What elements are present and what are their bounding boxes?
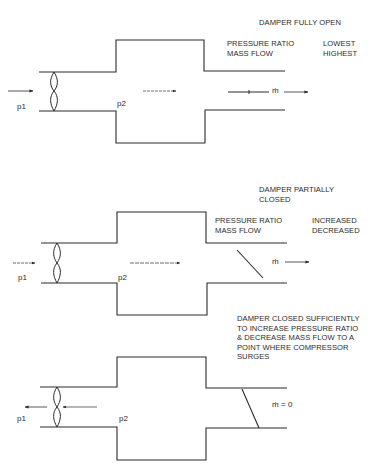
- panel-2-param-labels: PRESSURE RATIO MASS FLOW: [215, 216, 282, 235]
- panel-2-mass-flow-symbol: ṁ: [272, 257, 279, 267]
- closed-damper-icon: [242, 389, 259, 428]
- mass-flow-value: DECREASED: [312, 226, 360, 236]
- mass-flow-label: MASS FLOW: [227, 49, 294, 59]
- panel-3-mass-flow-zero: ṁ = 0: [272, 400, 292, 410]
- panel-2-title: DAMPER PARTIALLY CLOSED: [259, 185, 334, 204]
- mass-flow-value: HIGHEST: [323, 49, 357, 59]
- panel-3-title-line: & DECREASE MASS FLOW TO A: [237, 333, 360, 343]
- panel-1-param-values: LOWEST HIGHEST: [323, 39, 357, 58]
- panel-2-title-line: DAMPER PARTIALLY: [259, 185, 334, 195]
- panel-2-param-values: INCREASED DECREASED: [312, 216, 360, 235]
- panel-1-title-line: DAMPER FULLY OPEN: [259, 18, 341, 27]
- mass-flow-label: MASS FLOW: [215, 226, 282, 236]
- panel-1-p2-label: p2: [117, 99, 126, 109]
- panel-2-p1-label: p1: [18, 273, 27, 283]
- panel-2-p2-label: p2: [118, 273, 127, 283]
- panel-2-title-line: CLOSED: [259, 195, 334, 205]
- compressor-surge-diagram: DAMPER FULLY OPEN PRESSURE RATIO MASS FL…: [0, 0, 375, 474]
- pressure-ratio-value: LOWEST: [323, 39, 357, 49]
- panel-1-param-labels: PRESSURE RATIO MASS FLOW: [227, 39, 294, 58]
- panel-3-compressor-rotor-icon: [54, 387, 61, 427]
- panel-1-compressor-rotor-icon: [51, 72, 58, 111]
- pressure-ratio-label: PRESSURE RATIO: [227, 39, 294, 49]
- panel-3-title: DAMPER CLOSED SUFFICIENTLY TO INCREASE P…: [237, 314, 360, 362]
- panel-1-p1-label: p1: [17, 102, 26, 112]
- panel-3-title-line: SURGES: [237, 352, 360, 362]
- panel-3-title-line: POINT WHERE COMPRESSOR: [237, 343, 360, 353]
- panel-3-title-line: DAMPER CLOSED SUFFICIENTLY: [237, 314, 360, 324]
- diagram-drawing: [0, 0, 375, 474]
- partially-closed-damper-icon: [237, 250, 263, 278]
- panel-3-p1-label: p1: [17, 414, 26, 424]
- pressure-ratio-value: INCREASED: [312, 216, 360, 226]
- pressure-ratio-label: PRESSURE RATIO: [215, 216, 282, 226]
- panel-2-compressor-rotor-icon: [54, 243, 61, 283]
- panel-3-p2-label: p2: [119, 414, 128, 424]
- panel-1-mass-flow-symbol: ṁ: [272, 86, 279, 96]
- panel-1-title: DAMPER FULLY OPEN: [259, 18, 341, 28]
- panel-3-title-line: TO INCREASE PRESSURE RATIO: [237, 324, 360, 334]
